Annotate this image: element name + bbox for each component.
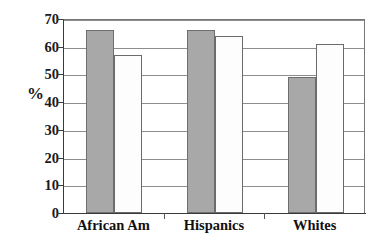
y-axis-tick-mark — [57, 19, 63, 20]
plot-area — [63, 19, 365, 213]
y-axis-tick-label: 60 — [7, 39, 59, 54]
bar — [187, 30, 215, 213]
y-axis-tick-mark — [57, 102, 63, 103]
y-axis-tick-label: 30 — [7, 123, 59, 138]
y-axis-tick-label: 10 — [7, 178, 59, 193]
gridline — [64, 20, 364, 21]
y-axis-tick-mark — [57, 213, 63, 214]
y-axis-tick-mark — [57, 130, 63, 131]
x-axis-category-label: Hispanics — [164, 218, 265, 233]
bar — [114, 55, 142, 213]
bar — [86, 30, 114, 213]
bar — [316, 44, 344, 213]
y-axis-tick-label: 50 — [7, 67, 59, 82]
y-axis-tick-labels: 010203040506070 — [0, 0, 59, 237]
y-axis-tick-mark — [57, 74, 63, 75]
x-axis-category-label: Whites — [264, 218, 365, 233]
x-axis-category-label: African Am — [63, 218, 164, 233]
y-axis-tick-label: 70 — [7, 12, 59, 27]
y-axis-tick-label: 0 — [7, 206, 59, 221]
y-axis-tick-label: 40 — [7, 95, 59, 110]
y-axis-tick-label: 20 — [7, 150, 59, 165]
y-axis-tick-mark — [57, 185, 63, 186]
bar-chart-figure: % 010203040506070 African AmHispanicsWhi… — [0, 0, 389, 237]
y-axis-tick-mark — [57, 158, 63, 159]
bar — [215, 36, 243, 213]
x-axis-line — [63, 213, 366, 214]
bar — [288, 77, 316, 213]
y-axis-tick-mark — [57, 47, 63, 48]
